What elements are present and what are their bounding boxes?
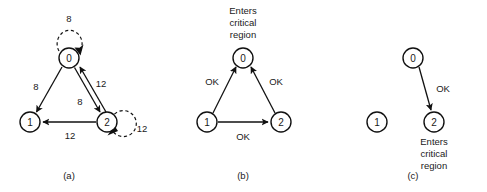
edge-2-to-0-panel-a bbox=[80, 67, 106, 112]
svg-text:0: 0 bbox=[240, 53, 246, 64]
caption-panel-b: (b) bbox=[237, 170, 249, 181]
caption-panel-c: (c) bbox=[407, 170, 418, 181]
edge-1-to-0-panel-b bbox=[213, 67, 236, 113]
node-1-panel-a[interactable]: 1 bbox=[20, 112, 40, 132]
svg-text:2: 2 bbox=[278, 117, 284, 128]
annotation-line-3-panel-b: region bbox=[230, 29, 256, 40]
svg-text:0: 0 bbox=[410, 53, 416, 64]
node-1-panel-b[interactable]: 1 bbox=[197, 112, 217, 132]
node-2-panel-a[interactable]: 2 bbox=[97, 112, 117, 132]
self-loop-label-node-2-panel-a: 12 bbox=[137, 123, 148, 134]
svg-text:1: 1 bbox=[374, 117, 380, 128]
edge-label-0-to-2-panel-a: 8 bbox=[77, 96, 82, 107]
annotation-line-2-panel-b: critical bbox=[230, 17, 257, 28]
annotation-line-1-panel-b: Enters bbox=[229, 5, 257, 16]
edge-0-to-1-panel-a bbox=[37, 67, 63, 112]
annotation-line-1-panel-c: Enters bbox=[420, 136, 448, 147]
edge-label-0-to-1-panel-a: 8 bbox=[33, 81, 38, 92]
figure-container: 8 8 8 12 12 12 0 1 bbox=[0, 0, 487, 192]
edge-2-to-0-panel-b bbox=[251, 67, 275, 113]
node-2-panel-c[interactable]: 2 bbox=[424, 112, 444, 132]
edge-label-1-to-2-panel-b: OK bbox=[236, 131, 250, 142]
edge-label-2-to-0-panel-a: 12 bbox=[96, 78, 107, 89]
node-1-panel-c[interactable]: 1 bbox=[367, 112, 387, 132]
edge-label-0-to-2-panel-c: OK bbox=[436, 83, 450, 94]
panel-b: Enters critical region OK OK OK 0 1 2 bbox=[197, 5, 291, 181]
state-diagram-svg: 8 8 8 12 12 12 0 1 bbox=[0, 0, 487, 192]
annotation-line-2-panel-c: critical bbox=[421, 148, 448, 159]
node-2-panel-b[interactable]: 2 bbox=[271, 112, 291, 132]
caption-panel-a: (a) bbox=[63, 170, 75, 181]
edge-label-2-to-1-panel-a: 12 bbox=[65, 130, 76, 141]
svg-text:2: 2 bbox=[431, 117, 437, 128]
edge-label-2-to-0-panel-b: OK bbox=[269, 76, 283, 87]
svg-text:1: 1 bbox=[27, 117, 33, 128]
edge-0-to-2-panel-c bbox=[419, 67, 431, 110]
panel-a: 8 8 8 12 12 12 0 1 bbox=[20, 13, 147, 182]
edge-label-1-to-0-panel-b: OK bbox=[205, 76, 219, 87]
panel-c: OK 0 1 2 Enters critical region (c) bbox=[367, 48, 451, 181]
svg-text:1: 1 bbox=[204, 117, 210, 128]
svg-text:0: 0 bbox=[66, 53, 72, 64]
node-0-panel-b[interactable]: 0 bbox=[233, 48, 253, 68]
svg-text:2: 2 bbox=[104, 117, 110, 128]
annotation-line-3-panel-c: region bbox=[421, 160, 447, 171]
node-0-panel-a[interactable]: 0 bbox=[59, 48, 79, 68]
node-0-panel-c[interactable]: 0 bbox=[403, 48, 423, 68]
self-loop-label-node-0-panel-a: 8 bbox=[66, 13, 71, 24]
